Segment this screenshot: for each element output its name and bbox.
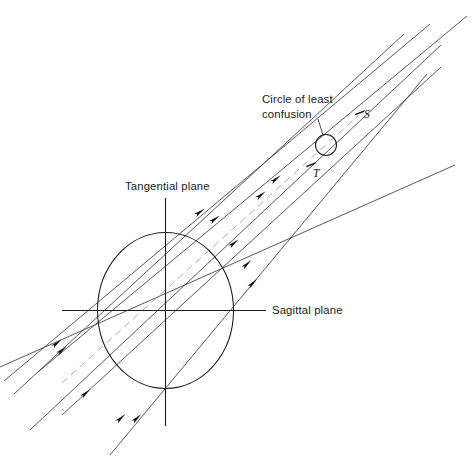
tangential-plane-label: Tangential plane [125,180,210,192]
ray-t3 [38,16,467,372]
sagittal-plane-label: Sagittal plane [272,304,343,316]
ray-arrowhead [194,207,206,217]
ray-s2 [30,45,441,430]
ray-arrowhead [241,259,252,270]
ray-t5 [110,74,427,455]
diagram-canvas: Circle of least confusion Tangential pla… [0,0,473,463]
ray-t1 [4,24,430,381]
ray-s1 [0,165,455,367]
ray-arrowhead [247,277,258,288]
ray-arrowhead [209,214,221,224]
leader-line [318,119,323,135]
ray-arrowhead [51,338,63,349]
tangential-focus-label: T [313,167,321,179]
sagittal-focus-label: S [364,108,370,120]
circle-of-least-confusion-label-line2: confusion [262,108,312,120]
circle-of-least-confusion-label-line1: Circle of least [262,93,333,105]
ray-arrowhead [270,174,282,184]
ray-direction-arrows [51,174,282,424]
ray-t4 [62,67,441,415]
ray-arrowhead [115,413,126,424]
ray-dash [62,116,358,383]
ray-bundle [0,16,467,455]
ray-arrowhead [255,190,267,200]
astigmatism-diagram: Circle of least confusion Tangential pla… [0,0,473,463]
